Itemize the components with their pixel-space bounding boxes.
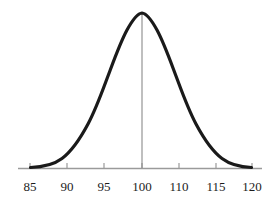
bell-curve-chart: 85 90 95 100 110 115 120 xyxy=(0,0,279,199)
chart-canvas: 85 90 95 100 110 115 120 xyxy=(0,0,279,199)
x-tick-label-4: 110 xyxy=(169,179,188,194)
x-tick-label-6: 120 xyxy=(242,179,262,194)
x-tick-label-5: 115 xyxy=(206,179,225,194)
x-tick-label-2: 95 xyxy=(98,179,111,194)
x-tick-label-0: 85 xyxy=(24,179,37,194)
x-tick-label-3: 100 xyxy=(132,179,152,194)
x-tick-label-1: 90 xyxy=(61,179,74,194)
